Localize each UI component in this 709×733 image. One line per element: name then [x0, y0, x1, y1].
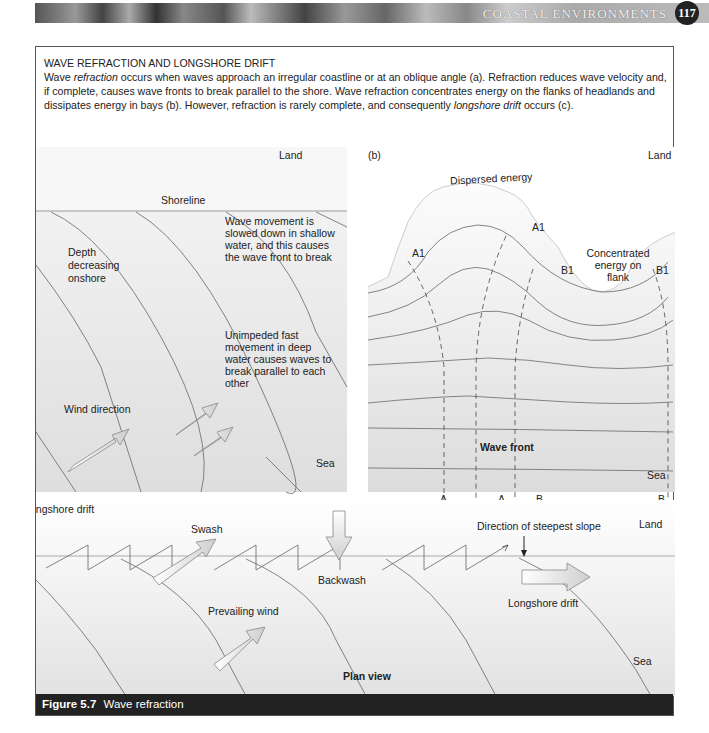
panel-a-land-label: Land — [279, 149, 303, 161]
diagram-svg: (a) Land Shoreline Depth decreasing onsh… — [36, 47, 675, 717]
panel-b: (b) Land Dispersed energy A1 A1 B1 B1 Co… — [368, 147, 675, 507]
figure-caption: Figure 5.7 Wave refraction — [36, 694, 673, 715]
panel-b-label: (b) — [368, 149, 381, 161]
b1-label-left: B1 — [561, 264, 574, 276]
svg-text:slowed down in shallow: slowed down in shallow — [225, 227, 335, 239]
longshore-drift-label: Longshore drift — [508, 597, 578, 609]
panel-c-land-label: Land — [639, 518, 663, 530]
svg-text:the wave front to break: the wave front to break — [225, 251, 333, 263]
svg-text:decreasing: decreasing — [68, 259, 120, 271]
svg-text:flank: flank — [607, 271, 630, 283]
panel-c-label: (c) Longshore drift — [36, 503, 94, 515]
wave-front-label: Wave front — [480, 441, 534, 453]
wind-direction-label: Wind direction — [64, 403, 131, 415]
svg-text:other: other — [225, 377, 249, 389]
figure-number: Figure 5.7 — [42, 698, 96, 710]
figure-title: Wave refraction — [104, 698, 184, 710]
svg-text:movement in deep: movement in deep — [225, 341, 312, 353]
running-header-banner: COASTAL ENVIRONMENTS 117 — [35, 3, 709, 23]
b1-label-right: B1 — [656, 264, 669, 276]
running-title: COASTAL ENVIRONMENTS — [483, 6, 667, 22]
shoreline-label: Shoreline — [161, 194, 206, 206]
panel-c: (c) Longshore drift Swash Backwash Direc… — [36, 500, 675, 696]
panel-a: (a) Land Shoreline Depth decreasing onsh… — [36, 147, 347, 494]
svg-text:break parallel to each: break parallel to each — [225, 365, 326, 377]
svg-text:Concentrated: Concentrated — [586, 247, 649, 259]
page-number: 117 — [675, 1, 699, 25]
swash-label: Swash — [191, 523, 223, 535]
svg-text:water causes waves to: water causes waves to — [224, 353, 331, 365]
panel-b-sea-label: Sea — [647, 469, 666, 481]
panel-c-sea-label: Sea — [633, 655, 652, 667]
panel-a-sea-label: Sea — [316, 457, 335, 469]
a1-label-left: A1 — [412, 247, 425, 259]
svg-text:water, and this causes: water, and this causes — [224, 239, 329, 251]
steepest-slope-label: Direction of steepest slope — [477, 520, 601, 532]
svg-text:energy on: energy on — [595, 259, 642, 271]
plan-view-label: Plan view — [343, 670, 392, 682]
svg-text:Depth: Depth — [68, 246, 96, 258]
panel-b-land-label: Land — [648, 149, 672, 161]
svg-text:Wave movement is: Wave movement is — [225, 215, 314, 227]
svg-text:Unimpeded fast: Unimpeded fast — [225, 329, 299, 341]
svg-text:onshore: onshore — [68, 272, 106, 284]
backwash-label: Backwash — [318, 574, 366, 586]
prevailing-wind-label: Prevailing wind — [208, 605, 279, 617]
a1-label-right: A1 — [532, 221, 545, 233]
figure-box: WAVE REFRACTION AND LONGSHORE DRIFT Wave… — [35, 46, 674, 716]
